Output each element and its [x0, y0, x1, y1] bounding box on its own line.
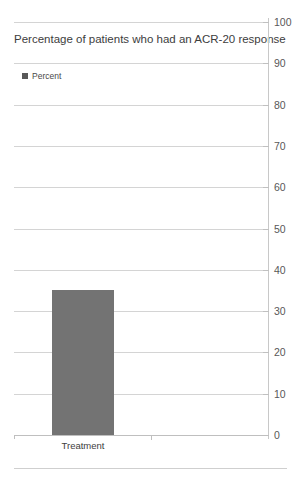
- value-axis-tick: [263, 146, 269, 147]
- category-axis-tick-left: [14, 435, 15, 439]
- value-axis-tick: [263, 394, 269, 395]
- gridline: [14, 187, 268, 188]
- value-axis-tick: [263, 311, 269, 312]
- gridline: [14, 105, 268, 106]
- value-axis-tick: [263, 229, 269, 230]
- value-axis-tick: [263, 270, 269, 271]
- gridline: [14, 22, 268, 23]
- value-axis-tick: [263, 63, 269, 64]
- gridline: [14, 63, 268, 64]
- value-axis-label: 10: [274, 389, 286, 400]
- plot-area: [14, 22, 268, 435]
- category-axis-tick-mid: [151, 435, 152, 440]
- value-axis-label: 90: [274, 58, 286, 69]
- value-axis-label: 50: [274, 224, 286, 235]
- bar-treatment: [52, 290, 114, 435]
- value-axis-tick: [263, 352, 269, 353]
- value-axis-tick: [263, 187, 269, 188]
- gridline: [14, 146, 268, 147]
- value-axis-label: 0: [274, 430, 280, 441]
- bottom-rule: [14, 468, 287, 469]
- category-axis-line: [14, 435, 268, 436]
- value-axis-label: 40: [274, 265, 286, 276]
- value-axis-tick: [263, 22, 269, 23]
- category-label-treatment: Treatment: [52, 440, 114, 452]
- value-axis-label: 70: [274, 141, 286, 152]
- chart-figure: Percentage of patients who had an ACR-20…: [0, 0, 301, 480]
- value-axis-label: 60: [274, 182, 286, 193]
- value-axis-label: 30: [274, 306, 286, 317]
- gridline: [14, 229, 268, 230]
- value-axis-tick: [263, 105, 269, 106]
- gridline: [14, 270, 268, 271]
- value-axis-label: 80: [274, 100, 286, 111]
- value-axis-label: 20: [274, 347, 286, 358]
- value-axis-label: 100: [274, 17, 292, 28]
